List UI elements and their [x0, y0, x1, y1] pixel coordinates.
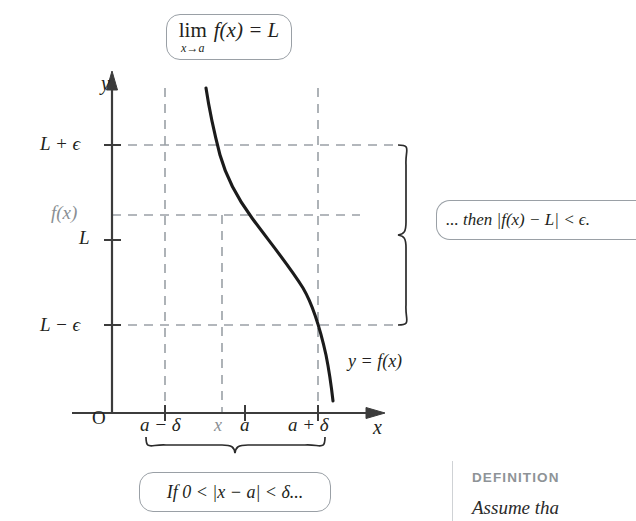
if-text: If 0 < |x − a| < δ...	[167, 482, 304, 503]
fragment-divider	[452, 461, 453, 521]
vertical-guides	[165, 88, 318, 413]
lim-operator: lim x→a	[179, 20, 207, 54]
x-tick-label-a-plus-delta: a + δ	[288, 415, 329, 434]
x-tick-label-a-minus-delta: a − δ	[140, 415, 181, 434]
lim-subscript: x→a	[181, 42, 204, 54]
then-conclusion-callout: ... then |f(x) − L| < ϵ.	[436, 200, 636, 240]
function-curve	[206, 88, 333, 401]
horizontal-guides	[112, 145, 396, 325]
definition-body-text: Assume tha	[472, 497, 559, 519]
x-tick-label-x: x	[214, 416, 222, 434]
y-axis-label: y	[101, 73, 110, 93]
y-tick-label-L-plus-epsilon: L + ϵ	[40, 134, 80, 153]
limit-body: f(x) = L	[214, 20, 280, 41]
axes	[72, 71, 385, 419]
page-fragment: DEFINITION Assume tha	[452, 461, 612, 521]
definition-heading: DEFINITION	[472, 470, 560, 485]
if-condition-callout: If 0 < |x − a| < δ...	[139, 472, 331, 512]
epsilon-brace	[398, 145, 407, 325]
x-axis-label: x	[373, 417, 382, 437]
y-tick-label-L: L	[79, 228, 90, 247]
limit-definition-callout: lim x→a f(x) = L	[166, 14, 292, 60]
lim-word: lim	[179, 20, 207, 41]
x-tick-label-a: a	[240, 415, 250, 434]
y-tick-label-L-minus-epsilon: L − ϵ	[40, 315, 80, 334]
curve-label: y = f(x)	[348, 352, 402, 370]
delta-brace	[146, 437, 325, 453]
limit-expression: lim x→a f(x) = L	[179, 20, 280, 54]
origin-label: O	[92, 408, 106, 427]
y-tick-label-fx: f(x)	[51, 203, 77, 222]
then-text: ... then |f(x) − L| < ϵ.	[446, 210, 590, 230]
